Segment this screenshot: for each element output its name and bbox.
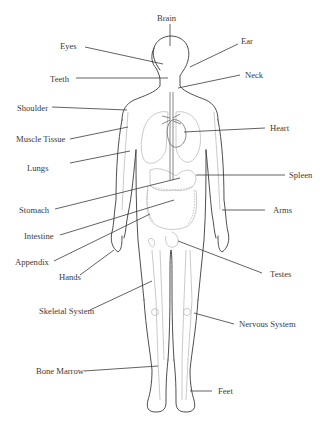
leader-neck (178, 75, 240, 88)
pelvis-organ (166, 232, 178, 247)
label-ear: Ear (241, 36, 253, 46)
label-feet: Feet (218, 386, 233, 396)
leader-lungs (70, 151, 130, 163)
label-teeth: Teeth (50, 74, 69, 84)
label-arms: Arms (273, 205, 292, 215)
leader-shoulder (52, 107, 127, 110)
label-brain: Brain (157, 13, 176, 23)
leader-eyes (85, 47, 163, 64)
label-shoulder: Shoulder (17, 103, 48, 113)
label-nervous-system: Nervous System (239, 319, 296, 329)
leader-heart (184, 128, 265, 132)
leader-bone-marrow (84, 366, 158, 371)
anatomy-diagram: Brain Eyes Ear Teeth Neck Shoulder Muscl… (0, 0, 325, 423)
label-lungs: Lungs (27, 163, 48, 173)
left-leg-outer (144, 300, 168, 412)
right-arm-outer (218, 120, 229, 252)
bronchi (162, 114, 181, 124)
left-knee (152, 309, 159, 316)
right-arm-inner (206, 150, 216, 238)
right-knee (184, 309, 191, 316)
label-muscle-tissue: Muscle Tissue (16, 134, 65, 144)
label-eyes: Eyes (60, 41, 77, 51)
left-arm-inner (124, 150, 136, 238)
leader-appendix (54, 214, 150, 261)
right-nerve (186, 250, 192, 400)
right-torso (198, 150, 206, 300)
left-arm-bone (122, 112, 128, 210)
pelvis-left (148, 238, 154, 247)
label-testes: Testes (270, 269, 291, 279)
left-femur (152, 250, 160, 400)
leader-skeletal-system (90, 281, 152, 310)
label-skeletal-system: Skeletal System (39, 306, 94, 316)
leader-hands (80, 250, 114, 275)
leader-nervous-system (194, 313, 234, 324)
crotch (168, 250, 174, 360)
intestine-outline (147, 186, 197, 229)
label-spleen: Spleen (289, 170, 312, 180)
label-neck: Neck (245, 70, 263, 80)
label-heart: Heart (270, 123, 289, 133)
left-tibia (160, 250, 164, 360)
label-bone-marrow: Bone Marrow (36, 366, 84, 376)
intestine-beads-left (147, 190, 154, 222)
leader-ear (190, 44, 238, 67)
label-appendix: Appendix (15, 257, 49, 267)
right-lung (176, 112, 201, 163)
right-femur (182, 250, 186, 400)
organs (122, 92, 220, 400)
label-hands: Hands (59, 272, 81, 282)
label-stomach: Stomach (19, 205, 49, 215)
label-intestine: Intestine (24, 231, 54, 241)
left-torso (136, 150, 144, 300)
leader-stomach (55, 178, 180, 209)
left-lung (141, 112, 168, 164)
